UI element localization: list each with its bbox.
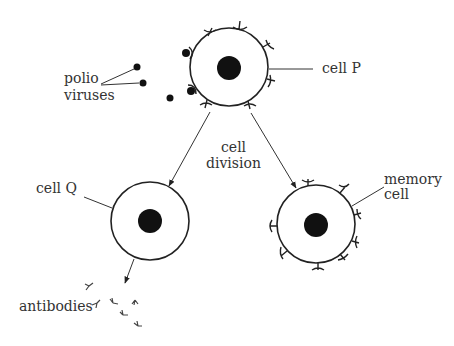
antibodies-label: antibodies (19, 298, 93, 314)
polio-virus-icon (134, 64, 174, 102)
cell-p (182, 21, 275, 109)
cell-q-nucleus (138, 209, 162, 233)
cell-p-nucleus (217, 56, 241, 80)
memory-cell-nucleus (304, 213, 328, 237)
immune-response-diagram: polio viruses cell P cell division cell … (0, 0, 454, 346)
polio-leader-line (101, 83, 139, 85)
cell-division-label-line2: division (206, 155, 261, 171)
polio-leader-line (101, 69, 134, 84)
polio-label: polio (64, 70, 99, 86)
memory-cell-leader-line (352, 187, 384, 206)
arrow-to-memory-cell (251, 113, 296, 188)
cell-p-label: cell P (322, 60, 361, 76)
viruses-label: viruses (63, 87, 115, 103)
cell-q-label: cell Q (36, 180, 77, 196)
antibody-icon (85, 283, 142, 326)
arrow-to-antibodies (125, 259, 134, 283)
memory-label-line2: cell (384, 186, 410, 202)
cell-q-leader-line (84, 197, 112, 208)
memory-label-line1: memory (384, 171, 442, 187)
memory-cell (270, 179, 361, 270)
cell-division-label-line1: cell (221, 139, 247, 155)
arrow-to-cell-q (169, 112, 210, 186)
cell-q (111, 182, 189, 260)
